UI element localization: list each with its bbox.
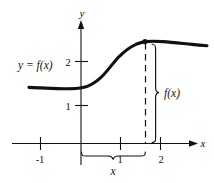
horizontal-brace-group: x — [81, 152, 145, 177]
axis-labels-group: x y — [79, 7, 206, 149]
vertical-brace-group: f(x) — [152, 44, 180, 142]
y-tick-label-1: 1 — [65, 101, 70, 112]
x-axis-arrowhead — [189, 140, 198, 146]
y-tick-label-2: 2 — [65, 57, 70, 68]
vertical-brace — [152, 44, 158, 142]
x-axis-label: x — [200, 137, 206, 149]
curve-label-group: y = f(x) — [17, 59, 53, 72]
function-curve — [29, 41, 207, 89]
horizontal-brace — [81, 152, 145, 159]
y-axis-label: y — [79, 7, 85, 19]
horizontal-brace-label: x — [109, 165, 116, 177]
graph-canvas: x y -1 1 2 1 2 f(x) — [0, 0, 214, 183]
tick-labels-group: -1 1 2 1 2 — [36, 57, 164, 165]
vertical-brace-label: f(x) — [164, 87, 180, 100]
function-curve-group — [29, 39, 207, 89]
y-axis-arrowhead — [78, 20, 84, 29]
x-tick-label--1: -1 — [36, 154, 45, 165]
function-graph-figure: x y -1 1 2 1 2 f(x) — [0, 0, 214, 183]
x-tick-label-2: 2 — [158, 154, 163, 165]
curve-label: y = f(x) — [17, 59, 53, 72]
